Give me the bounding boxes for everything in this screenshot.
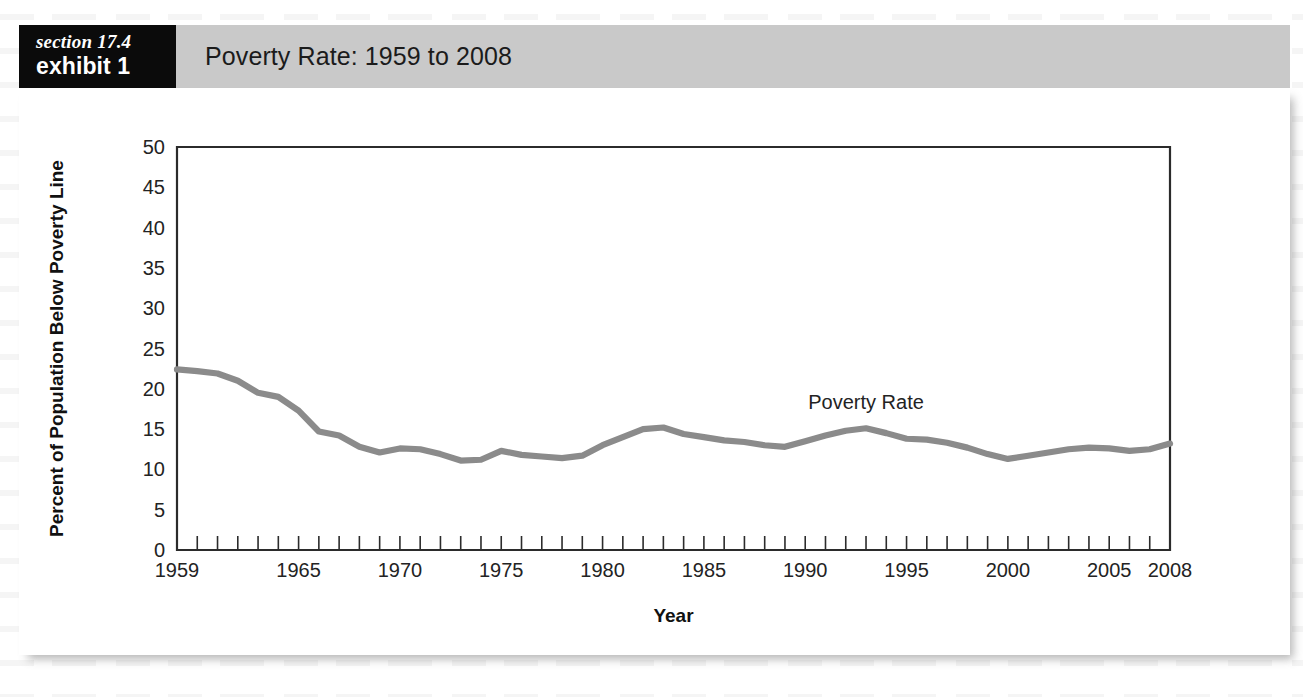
y-tick-label: 5 [154,499,165,521]
axis-frame [177,147,1170,550]
x-axis-tick-labels: 1959196519701975198019851990199520002005… [155,559,1193,581]
chart-svg: 05101520253035404550 1959196519701975198… [0,0,1303,697]
x-tick-label: 1985 [682,559,727,581]
y-tick-label: 45 [143,176,165,198]
y-axis-tick-labels: 05101520253035404550 [143,136,165,561]
y-tick-label: 40 [143,217,165,239]
y-tick-label: 15 [143,418,165,440]
x-tick-label: 2008 [1148,559,1193,581]
x-tick-label: 1965 [276,559,321,581]
y-tick-label: 20 [143,378,165,400]
x-axis-title: Year [653,605,694,626]
x-tick-label: 1980 [580,559,625,581]
y-tick-label: 25 [143,338,165,360]
y-tick-label: 35 [143,257,165,279]
x-axis-tick-marks [177,536,1170,550]
poverty-rate-annotation: Poverty Rate [808,391,924,413]
x-tick-label: 1995 [884,559,929,581]
x-tick-label: 1970 [378,559,423,581]
poverty-rate-line-chart: 05101520253035404550 1959196519701975198… [0,0,1303,697]
x-tick-label: 1990 [783,559,828,581]
x-tick-label: 1975 [479,559,524,581]
poverty-rate-series-line [177,369,1170,460]
x-tick-label: 1959 [155,559,200,581]
y-tick-label: 10 [143,458,165,480]
y-tick-label: 50 [143,136,165,158]
y-tick-label: 30 [143,297,165,319]
y-tick-label: 0 [154,539,165,561]
x-tick-label: 2005 [1087,559,1132,581]
x-tick-label: 2000 [986,559,1031,581]
y-axis-title: Percent of Population Below Poverty Line [46,160,67,537]
